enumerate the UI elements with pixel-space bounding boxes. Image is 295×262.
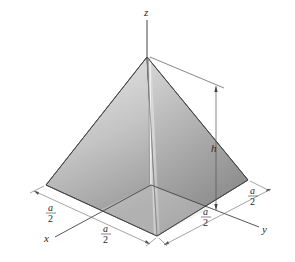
left-fraction-1: a 2 [46, 202, 56, 224]
left-fraction-2: a 2 [101, 223, 111, 245]
pyramid-figure: z x y h a 2 a 2 [0, 0, 295, 262]
x-axis-label: x [43, 232, 49, 244]
svg-text:2: 2 [48, 213, 53, 224]
svg-text:2: 2 [250, 196, 255, 207]
h-arrow-bottom [214, 204, 217, 210]
right-dim-arrow-start [164, 241, 169, 245]
svg-text:2: 2 [103, 234, 108, 245]
h-arrow-top [214, 86, 217, 92]
right-fraction-2: a 2 [248, 185, 258, 207]
z-axis-label: z [143, 6, 149, 18]
svg-text:a: a [48, 202, 53, 213]
svg-text:a: a [250, 185, 255, 196]
y-axis-label: y [261, 223, 267, 235]
svg-text:a: a [103, 223, 108, 234]
h-label: h [211, 142, 217, 154]
left-dim-arrow-end [145, 240, 150, 244]
pyramid-diagram: z x y h a 2 a 2 [0, 0, 295, 262]
right-fraction-1: a 2 [201, 206, 211, 228]
svg-text:2: 2 [203, 217, 208, 228]
svg-text:a: a [203, 206, 208, 217]
left-dim-arrow-start [34, 191, 39, 195]
right-extension-1 [159, 238, 167, 246]
